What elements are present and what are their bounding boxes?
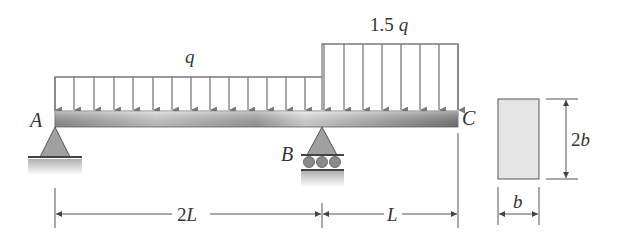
pin-support-a [28,127,82,175]
load-label-q: q [185,46,195,67]
beam [55,111,458,127]
beam-diagram: q 1.5q A C [0,0,619,242]
load-label-1-5q: 1.5q [370,14,409,35]
section-height-label: 2b [571,129,590,150]
cross-section [498,99,539,179]
point-label-b: B [281,143,293,165]
load-arrows-1-5q [324,44,458,110]
point-label-a: A [28,109,43,131]
roller-support-b [301,127,344,187]
distributed-load-1-5q: 1.5q [322,14,458,110]
load-arrows-q [55,77,305,110]
section-width-label: b [513,191,523,212]
distributed-load-q: q [55,46,322,111]
dimension-label-l: L [386,204,398,225]
dimension-label-2l: 2L [177,204,197,225]
point-label-c: C [462,107,476,129]
